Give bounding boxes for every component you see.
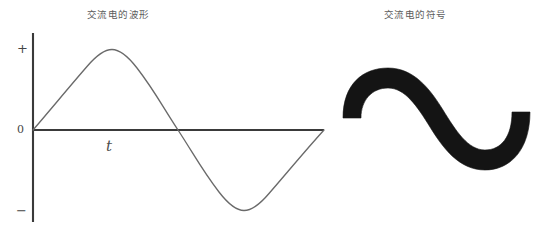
axis-label-negative: − <box>16 204 27 218</box>
figure-root: 交流电的波形 + 0 − t 交流电的符号 <box>0 0 549 238</box>
ac-symbol-path <box>343 68 530 170</box>
ac-tilde-symbol <box>340 0 549 238</box>
waveform-panel: 交流电的波形 + 0 − t <box>0 0 340 238</box>
axis-label-positive: + <box>17 42 28 56</box>
axis-label-time: t <box>106 138 112 155</box>
axis-label-zero: 0 <box>17 123 24 136</box>
symbol-panel: 交流电的符号 <box>340 0 549 238</box>
waveform-plot <box>0 0 340 238</box>
